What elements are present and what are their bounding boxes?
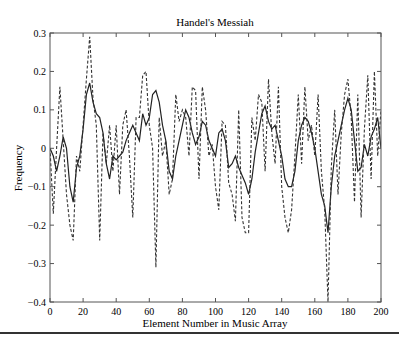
chart-title: Handel's Messiah: [176, 16, 254, 28]
x-tick-label: 160: [307, 306, 322, 317]
y-tick-label: −0.4: [28, 297, 46, 308]
x-tick-label: 100: [208, 306, 223, 317]
y-tick-label: −0.3: [28, 258, 46, 269]
x-tick-label: 60: [144, 306, 154, 317]
y-tick-label: 0: [41, 143, 46, 154]
y-axis-ticks: −0.4−0.3−0.2−0.100.10.20.3: [28, 28, 381, 308]
x-tick-label: 20: [78, 306, 88, 317]
y-tick-label: 0.2: [34, 66, 47, 77]
x-tick-label: 180: [340, 306, 355, 317]
line-chart: Handel's Messiah 02040608010012014016018…: [0, 0, 399, 346]
series-layer: [50, 37, 381, 302]
x-tick-label: 80: [177, 306, 187, 317]
y-tick-label: 0.3: [34, 28, 47, 39]
x-tick-label: 140: [274, 306, 289, 317]
horizontal-rule: [0, 332, 399, 334]
series-dashed: [50, 37, 381, 302]
x-axis-label: Element Number in Music Array: [143, 317, 288, 329]
y-tick-label: 0.1: [34, 104, 47, 115]
y-tick-label: −0.1: [28, 181, 46, 192]
x-tick-label: 40: [111, 306, 121, 317]
x-tick-label: 200: [374, 306, 389, 317]
y-tick-label: −0.2: [28, 220, 46, 231]
x-tick-label: 0: [48, 306, 53, 317]
y-axis-label: Frequency: [12, 144, 24, 191]
x-tick-label: 120: [241, 306, 256, 317]
